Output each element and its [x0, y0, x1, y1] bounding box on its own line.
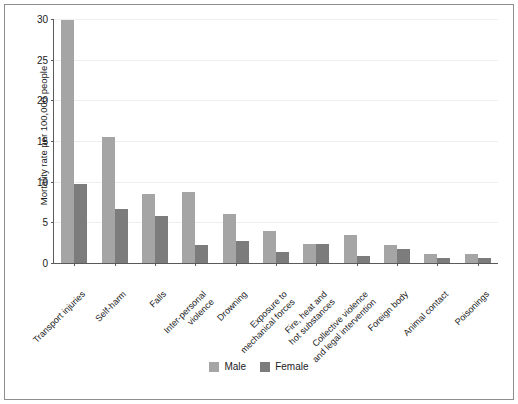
bar-female: [236, 241, 249, 263]
legend-swatch-icon: [260, 362, 270, 372]
x-tick-mark: [115, 263, 116, 266]
x-tick-mark: [236, 263, 237, 266]
bar-group: [384, 19, 410, 263]
bar-group: [223, 19, 249, 263]
bar-male: [344, 235, 357, 263]
bar-male: [182, 192, 195, 263]
y-tick-mark: [51, 222, 54, 223]
y-tick-mark: [51, 100, 54, 101]
bar-female: [276, 252, 289, 263]
y-tick-label: 30: [37, 14, 48, 25]
chart-legend: MaleFemale: [0, 361, 518, 372]
y-tick-mark: [51, 60, 54, 61]
bar-male: [61, 20, 74, 263]
bar-group: [182, 19, 208, 263]
y-tick-mark: [51, 182, 54, 183]
bar-male: [424, 254, 437, 263]
bar-male: [263, 231, 276, 263]
y-tick-label: 20: [37, 95, 48, 106]
legend-label: Male: [224, 361, 246, 372]
x-tick-mark: [397, 263, 398, 266]
bar-male: [465, 254, 478, 263]
y-tick-label: 0: [42, 258, 48, 269]
bar-female: [478, 258, 491, 263]
bar-female: [74, 184, 87, 263]
bar-male: [303, 244, 316, 263]
bar-group: [142, 19, 168, 263]
bar-female: [195, 245, 208, 263]
bar-female: [155, 216, 168, 263]
bar-female: [316, 244, 329, 263]
bar-male: [142, 194, 155, 263]
bar-male: [223, 214, 236, 263]
chart-figure: Mortality rate per 100,000 people 051015…: [0, 0, 518, 404]
y-tick-label: 15: [37, 136, 48, 147]
bar-male: [384, 245, 397, 263]
legend-label: Female: [275, 361, 308, 372]
x-tick-mark: [276, 263, 277, 266]
x-tick-mark: [195, 263, 196, 266]
x-tick-mark: [437, 263, 438, 266]
plot-area: 051015202530 Transport injuriesSelf-harm…: [53, 19, 498, 264]
y-tick-label: 10: [37, 176, 48, 187]
bar-group: [303, 19, 329, 263]
x-tick-mark: [74, 263, 75, 266]
bar-female: [437, 258, 450, 263]
bar-male: [102, 137, 115, 263]
x-tick-mark: [357, 263, 358, 266]
bar-group: [263, 19, 289, 263]
y-tick-mark: [51, 141, 54, 142]
y-tick-label: 25: [37, 54, 48, 65]
y-tick-mark: [51, 19, 54, 20]
x-tick-mark: [316, 263, 317, 266]
x-tick-mark: [155, 263, 156, 266]
bar-female: [115, 209, 128, 263]
bar-female: [397, 249, 410, 263]
y-tick-label: 5: [42, 217, 48, 228]
bar-group: [424, 19, 450, 263]
y-tick-mark: [51, 263, 54, 264]
bar-female: [357, 256, 370, 263]
bar-group: [61, 19, 87, 263]
bar-group: [465, 19, 491, 263]
legend-item-male[interactable]: Male: [209, 361, 246, 372]
legend-item-female[interactable]: Female: [260, 361, 308, 372]
x-tick-mark: [478, 263, 479, 266]
bar-group: [344, 19, 370, 263]
legend-swatch-icon: [209, 362, 219, 372]
bar-group: [102, 19, 128, 263]
